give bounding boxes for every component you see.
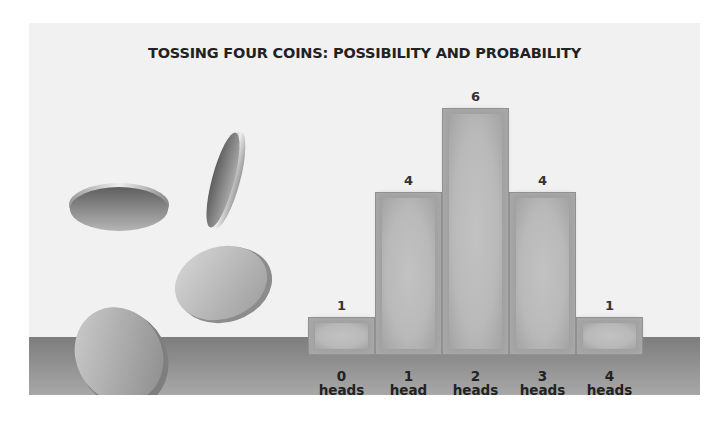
value-label: 4	[509, 173, 576, 188]
category-unit: heads	[442, 383, 509, 395]
coin-icon	[194, 128, 254, 238]
coin-icon	[171, 241, 276, 331]
bar-1-head	[375, 192, 442, 355]
category-number: 3	[509, 369, 576, 383]
category-number: 0	[308, 369, 375, 383]
category-label: 2heads	[442, 369, 509, 395]
bar-2-heads	[442, 108, 509, 355]
category-unit: head	[375, 383, 442, 395]
category-number: 2	[442, 369, 509, 383]
category-label: 1head	[375, 369, 442, 395]
value-label: 6	[442, 89, 509, 104]
chart-title: TOSSING FOUR COINS: POSSIBILITY AND PROB…	[29, 45, 700, 61]
value-label: 4	[375, 173, 442, 188]
category-unit: heads	[576, 383, 643, 395]
value-label: 1	[308, 298, 375, 313]
chart-panel: TOSSING FOUR COINS: POSSIBILITY AND PROB…	[29, 23, 700, 395]
bar-0-heads	[308, 317, 375, 355]
category-number: 4	[576, 369, 643, 383]
category-number: 1	[375, 369, 442, 383]
category-label: 0heads	[308, 369, 375, 395]
coin-icon	[64, 178, 174, 238]
category-unit: heads	[509, 383, 576, 395]
category-label: 4heads	[576, 369, 643, 395]
coin-icon	[71, 301, 171, 395]
bar-4-heads	[576, 317, 643, 355]
value-label: 1	[576, 298, 643, 313]
category-label: 3heads	[509, 369, 576, 395]
category-unit: heads	[308, 383, 375, 395]
bar-3-heads	[509, 192, 576, 355]
